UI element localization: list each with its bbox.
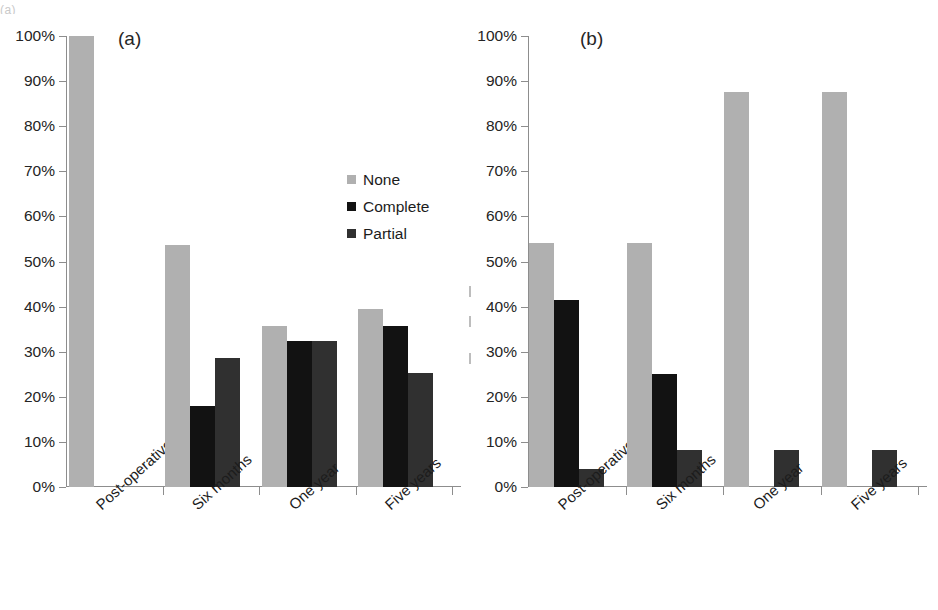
- y-axis-tick-label: 10%: [24, 434, 55, 450]
- bar-none: [529, 243, 554, 487]
- y-axis-tick-label: 70%: [486, 164, 517, 180]
- bar-complete: [554, 300, 579, 487]
- bar-complete: [652, 374, 677, 487]
- y-axis-tick-label: 0%: [33, 479, 55, 495]
- bar-none: [822, 92, 847, 487]
- y-axis-tick-label: 100%: [477, 28, 517, 44]
- y-axis-tick: [521, 126, 528, 127]
- scan-artifact-tick: [469, 316, 471, 327]
- y-axis-tick: [521, 216, 528, 217]
- y-axis-tick: [59, 397, 66, 398]
- bar-group: [821, 36, 919, 487]
- panel-b: (b) 0%10%20%30%40%50%60%70%80%90%100%Pos…: [460, 0, 938, 610]
- bar-group: [163, 36, 260, 487]
- y-axis-tick-label: 20%: [486, 389, 517, 405]
- y-axis-tick-label: 40%: [24, 299, 55, 315]
- y-axis-tick: [59, 36, 66, 37]
- bar-complete: [190, 406, 215, 487]
- y-axis-tick: [59, 442, 66, 443]
- bar-group: [356, 36, 453, 487]
- x-axis-tick: [821, 487, 822, 495]
- y-axis-tick-label: 90%: [486, 73, 517, 89]
- y-axis-tick: [521, 442, 528, 443]
- y-axis-tick-label: 80%: [486, 118, 517, 134]
- y-axis-tick: [521, 487, 528, 488]
- y-axis-tick-label: 70%: [24, 164, 55, 180]
- x-axis-tick: [452, 487, 453, 495]
- legend-swatch-complete-icon: [347, 202, 356, 211]
- y-axis-tick: [521, 36, 528, 37]
- legend-swatch-partial-icon: [347, 229, 356, 238]
- y-axis-tick-label: 20%: [24, 389, 55, 405]
- x-axis-tick: [259, 487, 260, 495]
- y-axis-tick-label: 40%: [486, 299, 517, 315]
- y-axis-tick-label: 10%: [486, 434, 517, 450]
- plot-area-a: 0%10%20%30%40%50%60%70%80%90%100%Post-op…: [66, 36, 452, 487]
- bar-group: [723, 36, 821, 487]
- y-axis-tick-label: 50%: [486, 254, 517, 270]
- legend-label-none: None: [363, 172, 400, 188]
- scan-artifact-tick: [469, 353, 471, 364]
- y-axis-tick-label: 80%: [24, 118, 55, 134]
- bar-none: [627, 243, 652, 487]
- bar-none: [165, 245, 190, 487]
- plot-area-b: 0%10%20%30%40%50%60%70%80%90%100%Post-op…: [528, 36, 918, 487]
- y-axis-tick-label: 50%: [24, 254, 55, 270]
- y-axis-tick: [521, 171, 528, 172]
- x-axis-tick: [356, 487, 357, 495]
- y-axis-tick-label: 100%: [15, 28, 55, 44]
- y-axis-tick: [59, 262, 66, 263]
- bar-none: [358, 309, 383, 487]
- y-axis-tick: [521, 397, 528, 398]
- y-axis-tick: [521, 307, 528, 308]
- y-axis-tick-label: 90%: [24, 73, 55, 89]
- x-axis-tick: [626, 487, 627, 495]
- y-axis-tick-label: 60%: [486, 209, 517, 225]
- y-axis-tick-label: 30%: [24, 344, 55, 360]
- legend-label-complete: Complete: [363, 199, 429, 215]
- figure: (a) (a) 0%10%20%30%40%50%60%70%80%90%100…: [0, 0, 938, 610]
- legend-swatch-none-icon: [347, 175, 356, 184]
- y-axis-tick-label: 30%: [486, 344, 517, 360]
- y-axis-tick: [59, 352, 66, 353]
- y-axis-tick: [59, 171, 66, 172]
- bar-group: [66, 36, 163, 487]
- bar-group: [528, 36, 626, 487]
- y-axis-tick: [521, 262, 528, 263]
- y-axis-tick: [59, 487, 66, 488]
- y-axis-tick-label: 0%: [495, 479, 517, 495]
- x-axis-tick: [163, 487, 164, 495]
- bar-none: [69, 36, 94, 487]
- y-axis-tick: [521, 352, 528, 353]
- bar-complete: [287, 341, 312, 487]
- legend-entry-complete: Complete: [347, 193, 429, 220]
- bar-group: [259, 36, 356, 487]
- scan-artifact-tick: [469, 286, 471, 297]
- x-axis-tick: [723, 487, 724, 495]
- y-axis-tick: [521, 81, 528, 82]
- legend-entry-none: None: [347, 166, 429, 193]
- y-axis-tick: [59, 81, 66, 82]
- legend: None Complete Partial: [347, 166, 429, 247]
- bar-complete: [383, 326, 408, 487]
- legend-label-partial: Partial: [363, 226, 407, 242]
- panel-a: (a) 0%10%20%30%40%50%60%70%80%90%100%Pos…: [0, 0, 469, 610]
- y-axis-tick: [59, 216, 66, 217]
- y-axis-tick: [59, 126, 66, 127]
- legend-entry-partial: Partial: [347, 220, 429, 247]
- bar-none: [724, 92, 749, 487]
- y-axis-tick-label: 60%: [24, 209, 55, 225]
- x-axis-tick: [918, 487, 919, 495]
- bar-none: [262, 326, 287, 487]
- y-axis-tick: [59, 307, 66, 308]
- bar-group: [626, 36, 724, 487]
